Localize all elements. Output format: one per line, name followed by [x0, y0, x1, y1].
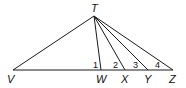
point-label-z: Z: [168, 73, 177, 85]
angle-label-3: 3: [133, 60, 138, 70]
diagram-canvas: T V W X Y Z 1 2 3 4: [0, 0, 186, 88]
segment-tv: [13, 16, 94, 70]
point-label-y: Y: [144, 73, 152, 85]
segment-ty: [94, 16, 148, 70]
angle-label-1: 1: [93, 60, 98, 70]
triangle-diagram: T V W X Y Z 1 2 3 4: [0, 0, 186, 88]
point-label-w: W: [96, 73, 108, 85]
point-label-v: V: [7, 73, 16, 85]
angle-label-4: 4: [155, 60, 160, 70]
point-label-x: X: [120, 73, 129, 85]
angle-label-2: 2: [113, 60, 118, 70]
point-label-t: T: [91, 2, 99, 14]
